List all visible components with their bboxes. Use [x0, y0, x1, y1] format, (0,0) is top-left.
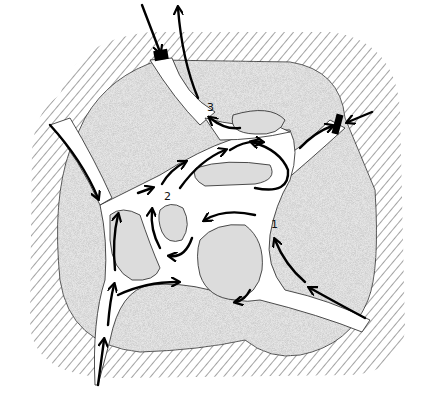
label-point-3: 3: [207, 101, 214, 114]
island-mid-oval: [194, 162, 272, 186]
label-point-2: 2: [164, 190, 171, 203]
label-point-1: 1: [271, 218, 278, 231]
flow-diagram: 1 2 3: [0, 0, 430, 413]
island-upper-oval: [232, 111, 285, 135]
